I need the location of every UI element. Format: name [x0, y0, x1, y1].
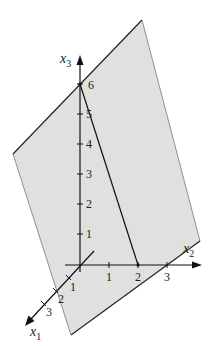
- x3-tick-5: 5: [86, 107, 92, 121]
- x2-tick-1: 1: [106, 270, 112, 284]
- x3-tick-6: 6: [88, 78, 94, 92]
- x3-arrow-icon: [77, 55, 84, 65]
- point-x3-6: [79, 83, 82, 86]
- x2-tick-3: 3: [164, 270, 170, 284]
- x2-arrow-icon: [192, 262, 202, 269]
- x3-tick-2: 2: [86, 197, 92, 211]
- plane-surface: [13, 20, 200, 335]
- x3-tick-1: 1: [86, 227, 92, 241]
- x1-tick-3: 3: [46, 305, 52, 319]
- x3-tick-3: 3: [86, 167, 92, 181]
- x1-tick-2: 2: [58, 292, 64, 306]
- x1-axis-label: x1: [29, 324, 41, 342]
- x1-tick-1: 1: [70, 280, 76, 294]
- point-x2-2: [137, 264, 140, 267]
- plane-diagram: 1 2 3 4 5 6 x3 1 2 3 x2 1 2 3 x1: [0, 0, 210, 346]
- x3-axis-label: x3: [59, 51, 71, 69]
- x3-tick-4: 4: [86, 137, 92, 151]
- x2-tick-2: 2: [135, 270, 141, 284]
